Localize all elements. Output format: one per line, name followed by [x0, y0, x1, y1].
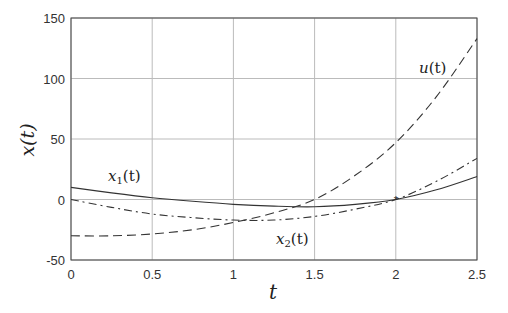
y-tick-label: 50 [51, 132, 65, 147]
x-tick-label: 1.5 [306, 267, 324, 282]
y-axis-label: x(t) [16, 123, 38, 156]
x-tick-label: 0.5 [143, 267, 161, 282]
grid-lines [71, 18, 477, 260]
intersection-marker: * [394, 194, 399, 206]
x-axis-label: t [269, 280, 278, 304]
tick-labels: 00.511.522.5-50050100150 [43, 11, 486, 282]
x-tick-label: 1 [230, 267, 237, 282]
y-tick-label: 0 [58, 193, 65, 208]
x-tick-label: 2.5 [468, 267, 486, 282]
y-tick-label: -50 [46, 253, 65, 268]
y-tick-label: 100 [43, 72, 65, 87]
y-tick-label: 150 [43, 11, 65, 26]
annotation-u: u(t) [419, 59, 446, 77]
x-tick-label: 2 [392, 267, 399, 282]
annotation-x2: x2(t) [276, 230, 309, 249]
data-series: * [71, 39, 477, 236]
x-tick-label: 0 [67, 267, 74, 282]
annotation-x1: x1(t) [108, 167, 141, 186]
line-chart: 00.511.522.5-50050100150 * t x(t) x1(t) … [0, 0, 508, 313]
